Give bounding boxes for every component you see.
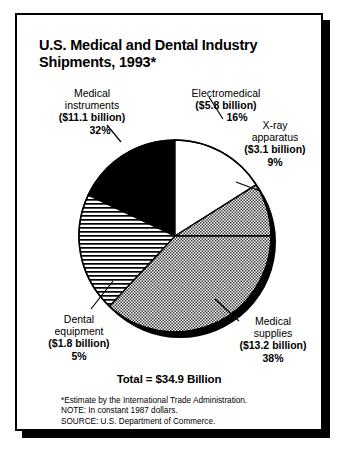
- pie-chart-stage: Medical instruments ($11.1 billion) 32% …: [17, 15, 321, 429]
- label-medical-instruments-percent: 32%: [49, 124, 151, 136]
- label-medical-instruments-name2: instruments: [33, 99, 151, 111]
- footnotes: *Estimate by the International Trade Adm…: [61, 396, 247, 427]
- chart-figure: U.S. Medical and Dental Industry Shipmen…: [0, 0, 346, 453]
- callout-medical-instruments: Medical instruments ($11.1 billion) 32%: [33, 87, 151, 136]
- label-xray-name1: X-ray: [229, 119, 321, 131]
- footnote-estimate: *Estimate by the International Trade Adm…: [61, 396, 247, 406]
- label-dental-name2: equipment: [27, 325, 131, 337]
- callout-xray-apparatus: X-ray apparatus ($3.1 billion) 9%: [229, 119, 321, 168]
- label-medical-supplies-percent: 38%: [225, 352, 321, 364]
- label-electromedical-amount: ($5.8 billion): [165, 99, 287, 111]
- chart-panel: U.S. Medical and Dental Industry Shipmen…: [15, 13, 323, 431]
- footnote-note: NOTE: In constant 1987 dollars.: [61, 406, 247, 416]
- label-medical-instruments-amount: ($11.1 billion): [33, 111, 151, 123]
- pie-chart-svg: [17, 15, 321, 429]
- label-dental-amount: ($1.8 billion): [27, 337, 131, 349]
- label-xray-amount: ($3.1 billion): [229, 143, 321, 155]
- label-medical-supplies-name1: Medical: [225, 315, 321, 327]
- callout-dental-equipment: Dental equipment ($1.8 billion) 5%: [27, 313, 131, 362]
- label-dental-percent: 5%: [27, 350, 131, 362]
- label-electromedical-name1: Electromedical: [165, 87, 287, 99]
- label-medical-supplies-amount: ($13.2 billion): [225, 339, 321, 351]
- callout-medical-supplies: Medical supplies ($13.2 billion) 38%: [225, 315, 321, 364]
- total-label: Total = $34.9 Billion: [17, 373, 321, 385]
- label-medical-supplies-name2: supplies: [225, 327, 321, 339]
- label-xray-percent: 9%: [229, 156, 321, 168]
- footnote-source: SOURCE: U.S. Department of Commerce.: [61, 417, 247, 427]
- label-dental-name1: Dental: [27, 313, 131, 325]
- label-xray-name2: apparatus: [229, 131, 321, 143]
- label-medical-instruments-name1: Medical: [33, 87, 151, 99]
